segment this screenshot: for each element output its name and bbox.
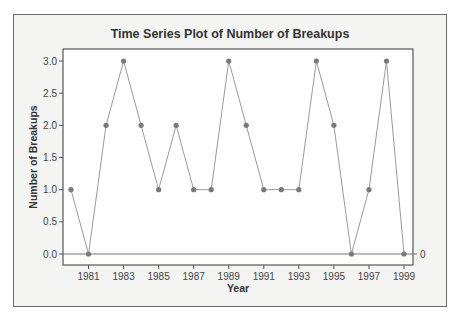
x-tick-label: 1981: [77, 271, 100, 282]
y-axis: 0.00.51.01.52.02.53.0: [43, 56, 63, 260]
x-tick-label: 1997: [358, 271, 381, 282]
reference-line-label: 0: [420, 249, 426, 260]
data-point: [401, 251, 406, 256]
data-point: [191, 187, 196, 192]
data-point: [261, 187, 266, 192]
y-tick-label: 2.5: [43, 88, 57, 99]
y-tick-label: 2.0: [43, 120, 57, 131]
y-tick-label: 1.5: [43, 152, 57, 163]
x-tick-label: 1991: [253, 271, 276, 282]
x-tick-label: 1983: [112, 271, 135, 282]
x-tick-label: 1987: [183, 271, 206, 282]
data-point: [174, 123, 179, 128]
y-tick-label: 0.5: [43, 216, 57, 227]
data-point: [226, 58, 231, 63]
data-point: [156, 187, 161, 192]
data-point: [314, 58, 319, 63]
data-point: [68, 187, 73, 192]
y-tick-label: 0.0: [43, 249, 57, 260]
x-tick-label: 1985: [148, 271, 171, 282]
data-point: [279, 187, 284, 192]
data-point: [384, 58, 389, 63]
x-tick-label: 1995: [323, 271, 346, 282]
y-tick-label: 1.0: [43, 184, 57, 195]
x-axis: 1981198319851987198919911993199519971999: [77, 265, 415, 282]
x-axis-label: Year: [227, 282, 249, 294]
plot-border: [63, 49, 413, 265]
data-point: [103, 123, 108, 128]
y-tick-label: 3.0: [43, 56, 57, 67]
data-point: [244, 123, 249, 128]
plot-area: 0.00.51.01.52.02.53.0 198119831985198719…: [0, 0, 460, 322]
data-point: [86, 251, 91, 256]
x-tick-label: 1999: [393, 271, 416, 282]
data-point: [331, 123, 336, 128]
x-tick-label: 1993: [288, 271, 311, 282]
data-point: [139, 123, 144, 128]
x-tick-label: 1989: [218, 271, 241, 282]
data-point: [296, 187, 301, 192]
data-point: [121, 58, 126, 63]
y-axis-label: Number of Breakups: [27, 105, 39, 208]
data-point: [349, 251, 354, 256]
data-point: [209, 187, 214, 192]
data-point: [366, 187, 371, 192]
